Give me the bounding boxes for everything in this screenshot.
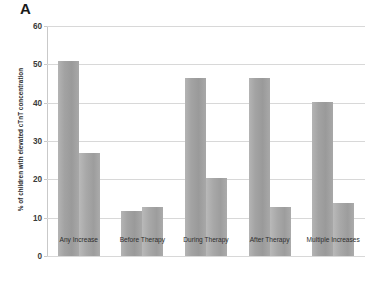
bars-layer xyxy=(47,26,365,256)
bar xyxy=(142,207,163,256)
bar-group xyxy=(185,26,227,256)
bar-group xyxy=(312,26,354,256)
figure-panel-a: A % of children with elevated cTnT conce… xyxy=(0,0,369,287)
y-axis-tick-label: 40 xyxy=(33,98,42,107)
x-axis-tick-label: During Therapy xyxy=(183,236,228,243)
panel-label: A xyxy=(20,1,31,17)
x-axis-tick-label: Multiple Increases xyxy=(307,236,360,243)
y-axis-tick-label: 30 xyxy=(33,137,42,146)
bar xyxy=(312,102,333,256)
bar xyxy=(58,61,79,257)
bar xyxy=(270,207,291,256)
x-axis-tick-label: Any Increase xyxy=(60,236,98,243)
bar xyxy=(249,78,270,256)
y-axis-tick-label: 0 xyxy=(37,252,42,261)
plot-area: 0102030405060 xyxy=(47,26,365,256)
y-axis-title: % of children with elevated cTnT concent… xyxy=(17,25,24,255)
bar xyxy=(333,203,354,256)
y-axis-tick-label: 50 xyxy=(33,60,42,69)
bar xyxy=(206,178,227,256)
bar-group xyxy=(58,26,100,256)
x-axis-tick-label: Before Therapy xyxy=(120,236,165,243)
y-axis-tick-label: 10 xyxy=(33,213,42,222)
bar-group xyxy=(121,26,163,256)
y-axis-tick-label: 60 xyxy=(33,22,42,31)
bar xyxy=(185,78,206,256)
y-axis-tick-label: 20 xyxy=(33,175,42,184)
bar-group xyxy=(249,26,291,256)
gridline xyxy=(47,256,365,257)
x-axis-tick-label: After Therapy xyxy=(250,236,290,243)
y-axis-tick xyxy=(44,256,47,257)
bar xyxy=(121,211,142,256)
